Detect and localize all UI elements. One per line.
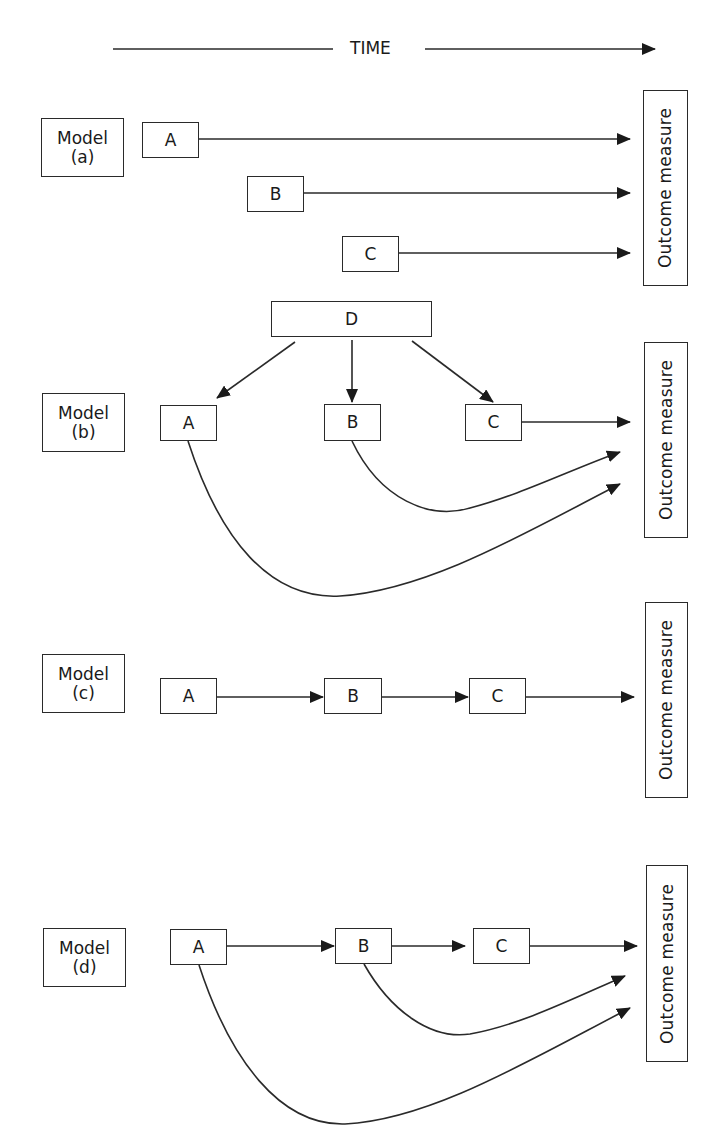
model-d-label: Model (d) bbox=[43, 928, 126, 987]
model-b-node-B: B bbox=[324, 404, 381, 441]
model-b-node-D: D bbox=[271, 301, 432, 337]
edge-d-B-outcome bbox=[364, 964, 625, 1035]
model-c-label-line2: (c) bbox=[72, 684, 95, 703]
model-c-node-A: A bbox=[160, 678, 217, 714]
model-b-label-line2: (b) bbox=[71, 423, 95, 442]
model-a-node-B: B bbox=[247, 176, 304, 212]
time-axis-label: TIME bbox=[350, 38, 391, 58]
edge-d-A-outcome bbox=[199, 965, 630, 1124]
model-b-label-line1: Model bbox=[58, 404, 109, 423]
edge-b-B-outcome bbox=[352, 441, 620, 511]
edge-b-D-A bbox=[217, 342, 295, 398]
model-d-node-B: B bbox=[335, 928, 392, 964]
model-b-outcome-measure: Outcome measure bbox=[644, 342, 688, 538]
model-b-label: Model (b) bbox=[42, 393, 125, 452]
model-a-label-line2: (a) bbox=[71, 148, 95, 167]
model-c-node-C: C bbox=[469, 678, 526, 714]
edge-b-A-outcome bbox=[188, 441, 620, 596]
model-b-node-A: A bbox=[160, 405, 217, 441]
model-a-outcome-measure: Outcome measure bbox=[643, 90, 688, 286]
model-c-label-line1: Model bbox=[58, 665, 109, 684]
model-c-outcome-measure: Outcome measure bbox=[645, 602, 688, 798]
model-a-node-A: A bbox=[142, 122, 199, 158]
model-d-node-A: A bbox=[170, 929, 227, 965]
model-d-label-line2: (d) bbox=[72, 958, 96, 977]
edge-b-D-C bbox=[412, 341, 493, 402]
model-a-label: Model (a) bbox=[41, 118, 124, 177]
model-c-label: Model (c) bbox=[42, 654, 125, 713]
model-a-label-line1: Model bbox=[57, 129, 108, 148]
model-c-node-B: B bbox=[324, 678, 382, 714]
model-d-outcome-measure: Outcome measure bbox=[646, 865, 688, 1062]
model-d-node-C: C bbox=[473, 928, 530, 964]
model-d-label-line1: Model bbox=[59, 939, 110, 958]
model-a-node-C: C bbox=[342, 236, 399, 272]
model-b-node-C: C bbox=[465, 404, 522, 441]
